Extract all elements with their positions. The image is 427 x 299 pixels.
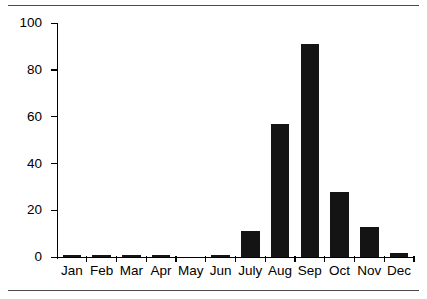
bar xyxy=(360,227,378,257)
bar xyxy=(122,255,140,257)
x-axis-tick xyxy=(413,256,414,262)
x-axis-label: Sep xyxy=(295,264,325,279)
x-axis-label: Nov xyxy=(355,264,385,279)
x-axis-tick xyxy=(235,256,236,262)
y-axis-tick-label: 40 xyxy=(0,157,42,171)
bar xyxy=(63,255,81,257)
bar xyxy=(152,255,170,257)
y-axis-tick-label: 80 xyxy=(0,63,42,77)
y-axis-tick-label: 20 xyxy=(0,203,42,217)
x-axis-tick xyxy=(354,256,355,262)
x-axis-label: Apr xyxy=(146,264,176,279)
bar xyxy=(271,124,289,257)
x-axis-tick xyxy=(146,256,147,262)
y-axis-tick xyxy=(51,116,58,117)
x-axis-tick xyxy=(86,256,87,262)
y-axis-tick-label: 100 xyxy=(0,16,42,30)
y-axis-line xyxy=(57,23,58,259)
bar xyxy=(92,255,110,257)
bar xyxy=(241,231,259,257)
x-axis-tick xyxy=(205,256,206,262)
x-axis-label: Feb xyxy=(87,264,117,279)
x-axis-tick xyxy=(294,256,295,262)
x-axis-tick xyxy=(384,256,385,262)
x-axis-label: Jun xyxy=(206,264,236,279)
x-axis-label: Dec xyxy=(384,264,414,279)
y-axis-tick xyxy=(51,69,58,70)
x-axis-tick xyxy=(324,256,325,262)
bar xyxy=(330,192,348,258)
y-axis-tick xyxy=(51,210,58,211)
x-axis-label: May xyxy=(176,264,206,279)
bar-chart-plot-area: 020406080100 JanFebMarAprMayJunJulyAugSe… xyxy=(0,0,427,299)
y-axis-tick xyxy=(51,163,58,164)
figure-container: 020406080100 JanFebMarAprMayJunJulyAugSe… xyxy=(0,0,427,299)
bar xyxy=(301,44,319,257)
x-axis-label: Aug xyxy=(265,264,295,279)
x-axis-label: Jan xyxy=(57,264,87,279)
y-axis-tick xyxy=(51,23,58,24)
x-axis-tick xyxy=(265,256,266,262)
x-axis-tick xyxy=(116,256,117,262)
x-axis-label: Mar xyxy=(117,264,147,279)
x-axis-tick xyxy=(175,256,176,262)
bar xyxy=(211,255,229,257)
bar xyxy=(390,253,408,258)
x-axis-label: Oct xyxy=(325,264,355,279)
x-axis-label: July xyxy=(236,264,266,279)
y-axis-tick-label: 60 xyxy=(0,110,42,124)
y-axis-tick-label: 0 xyxy=(0,250,42,264)
y-axis-tick xyxy=(51,257,58,258)
